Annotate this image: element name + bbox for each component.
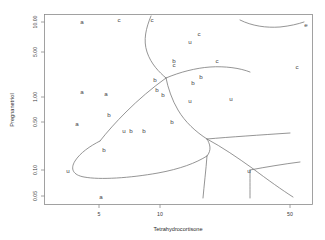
data-point-b: b [191, 79, 195, 86]
data-point-b: b [129, 127, 133, 134]
y-tick-label: 5.00 [32, 47, 38, 57]
x-tick-label: 5 [98, 211, 101, 217]
y-tick-label: 1.00 [32, 92, 38, 102]
boundary-descender-left [203, 156, 207, 198]
data-point-b: b [170, 118, 174, 125]
boundary-loop-right-join [207, 139, 210, 156]
data-point-u: u [66, 167, 70, 174]
data-point-b: b [199, 73, 203, 80]
x-tick-label: 50 [287, 211, 293, 217]
plot-frame [45, 15, 313, 205]
x-axis-tick-labels: 5 10 50 [98, 211, 293, 217]
data-point-u: u [122, 127, 126, 134]
data-point-u: u [229, 95, 233, 102]
data-point-b: b [102, 146, 106, 153]
data-point-b: b [161, 91, 165, 98]
data-point-c: c [295, 63, 298, 70]
y-axis-ticks [41, 22, 45, 196]
data-point-a: a [80, 88, 84, 95]
y-axis-tick-labels: 10.00 5.00 1.00 0.50 0.10 0.05 [32, 15, 38, 201]
data-point-b: b [155, 86, 159, 93]
data-point-b: b [142, 127, 146, 134]
x-axis-title: Tetrahydrocortisone [153, 226, 202, 232]
scatter-plot-figure: 10.00 5.00 1.00 0.50 0.10 0.05 Pregnanet… [0, 0, 325, 240]
boundary-right-fan-low [207, 133, 290, 139]
data-point-c: c [215, 57, 218, 64]
data-point-u: u [188, 97, 192, 104]
data-point-c: c [197, 30, 200, 37]
plot-canvas: 10.00 5.00 1.00 0.50 0.10 0.05 Pregnanet… [0, 0, 325, 240]
boundary-central-ridge [166, 78, 207, 139]
data-points: a a a a a b b b b b b b b b b b c c c c … [66, 16, 308, 200]
y-tick-label: 0.05 [32, 191, 38, 201]
data-point-u: u [188, 38, 192, 45]
data-point-b: b [107, 111, 111, 118]
boundary-upper-branch-to-right [166, 67, 250, 78]
data-point-a: a [104, 90, 108, 97]
y-tick-label: 0.50 [32, 117, 38, 127]
boundary-lower-loop [73, 141, 207, 178]
boundary-upper-left-arc [145, 16, 166, 78]
data-point-u: u [247, 167, 251, 174]
data-point-a: a [80, 18, 84, 25]
data-point-c: c [172, 61, 175, 68]
y-tick-label: 0.10 [32, 165, 38, 175]
x-tick-label: 10 [157, 211, 163, 217]
boundary-top-right-arc [240, 20, 304, 27]
data-point-c: c [150, 16, 153, 23]
data-point-b: b [153, 76, 157, 83]
x-axis-ticks [99, 205, 290, 209]
boundary-right-fan-mid [250, 162, 300, 170]
y-tick-label: 10.00 [32, 15, 38, 28]
data-point-c: c [117, 16, 120, 23]
data-point-e: e [304, 21, 308, 28]
data-point-a: a [99, 193, 103, 200]
y-axis-title: Pregnanetriol [9, 93, 15, 126]
data-point-a: a [75, 120, 79, 127]
